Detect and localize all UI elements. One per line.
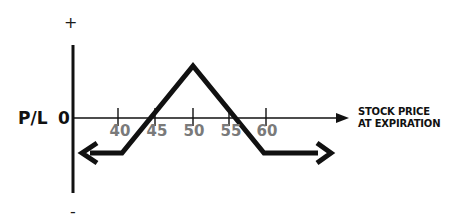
positive-sign: + xyxy=(64,15,77,31)
x-axis-label: STOCK PRICE AT EXPIRATION xyxy=(358,106,440,130)
x-axis-label-line-2: AT EXPIRATION xyxy=(358,118,440,130)
y-axis-label: P/L xyxy=(18,109,48,127)
y-zero-label: 0 xyxy=(58,109,70,127)
right-arrow-icon xyxy=(317,143,331,163)
negative-sign: - xyxy=(70,204,76,220)
x-axis-label-line-1: STOCK PRICE xyxy=(358,106,440,118)
tick-label-55: 55 xyxy=(216,123,246,139)
tick-label-60: 60 xyxy=(252,123,282,139)
x-axis-arrow-icon xyxy=(336,113,349,123)
tick-label-40: 40 xyxy=(105,123,135,139)
tick-label-45: 45 xyxy=(142,123,172,139)
tick-label-50: 50 xyxy=(179,123,209,139)
